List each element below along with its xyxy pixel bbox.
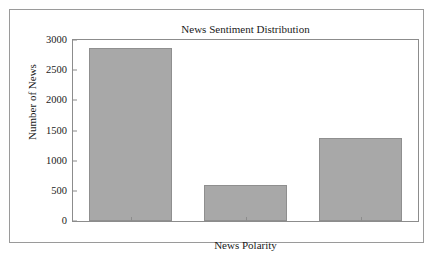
y-tick-label: 2000 [46,95,73,106]
x-axis-label: News Polarity [72,239,419,251]
bar-negative [204,185,287,221]
x-tick-mark [361,217,362,221]
y-tick-label: 500 [51,186,73,197]
x-tick-mark [246,217,247,221]
plot-area: 050010001500200025003000 neutralnegative… [72,39,419,222]
bar-positive [319,138,402,221]
x-tick-mark [131,217,132,221]
y-tick-label: 0 [62,216,73,227]
y-tick-label: 3000 [46,35,73,46]
figure-frame: News Sentiment Distribution Number of Ne… [9,9,424,243]
bar-neutral [89,48,172,221]
y-axis-label: Number of News [26,42,38,162]
y-tick-label: 2500 [46,65,73,76]
y-tick-label: 1000 [46,155,73,166]
chart-title: News Sentiment Distribution [72,22,419,36]
bars-layer [73,40,418,221]
y-tick-label: 1500 [46,125,73,136]
